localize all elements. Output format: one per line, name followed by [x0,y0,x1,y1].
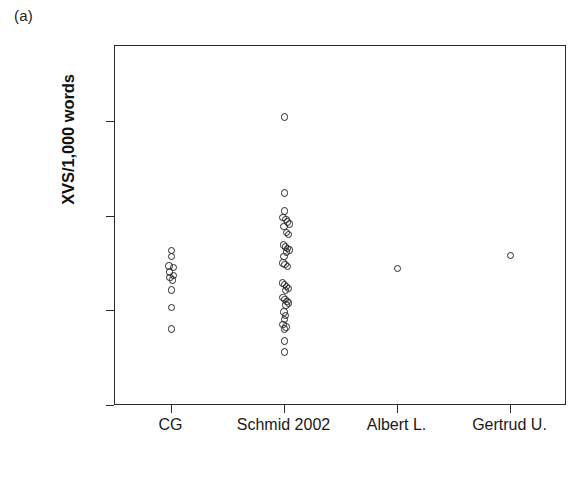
y-tick-mark [106,310,114,311]
plot-frame [114,45,566,405]
data-point [281,325,289,333]
data-point [507,252,515,260]
x-tick-mark [397,405,398,413]
x-tick-mark [171,405,172,413]
x-tick-label: Gertrud U. [435,417,581,433]
y-tick-mark [106,216,114,217]
panel-label: (a) [14,8,33,23]
data-point [169,276,177,284]
data-point [281,113,289,121]
data-point [168,253,176,261]
data-point [284,263,292,271]
data-point [281,348,289,356]
y-tick-mark [106,405,114,406]
data-point [168,325,176,333]
x-tick-mark [284,405,285,413]
plot-area [115,46,565,404]
data-point [281,189,289,197]
y-axis-title: XVS/1,000 words [59,30,78,250]
data-point [285,231,293,239]
data-point [168,304,176,312]
data-point [394,265,402,273]
figure-panel: (a) XVS/1,000 words 0.0020.0040.0060.00 … [0,0,581,481]
y-tick-mark [106,121,114,122]
x-tick-mark [510,405,511,413]
data-point [168,286,176,294]
data-point [281,337,289,345]
